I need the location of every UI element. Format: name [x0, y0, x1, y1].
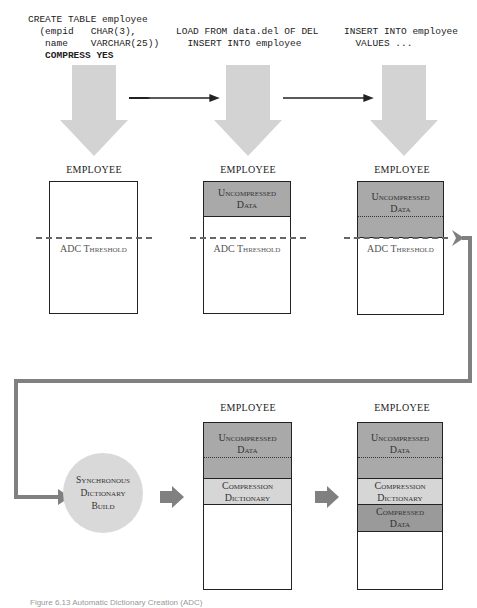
- compression-dictionary-segment: CompressionDictionary: [204, 478, 291, 504]
- employee-table-compressed: UncompressedData CompressionDictionary C…: [357, 422, 443, 590]
- arrow-right-icon: [160, 486, 184, 508]
- synchronous-dictionary-build: SynchronousDictionaryBuild: [63, 453, 143, 533]
- compression-dictionary-segment: CompressionDictionary: [358, 478, 442, 504]
- table-label: EMPLOYEE: [342, 402, 462, 413]
- chevron-right-icon: [452, 230, 464, 246]
- figure-caption: Figure 6.13 Automatic Dictionary Creatio…: [30, 598, 203, 607]
- arrow-right-icon: [315, 486, 339, 508]
- employee-table-dictionary: UncompressedData CompressionDictionary: [203, 422, 292, 590]
- uncompressed-data-segment: UncompressedData: [204, 423, 291, 478]
- table-label: EMPLOYEE: [188, 402, 308, 413]
- uncompressed-data-segment: UncompressedData: [358, 423, 442, 478]
- compressed-data-segment: CompressedData: [358, 504, 442, 531]
